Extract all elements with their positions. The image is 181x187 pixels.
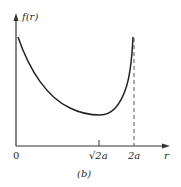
y-axis-label: f(r) — [22, 12, 38, 22]
tick-label-sqrt2a: √2a — [89, 151, 108, 161]
y-axis-arrow-icon — [14, 13, 19, 21]
origin-label: 0 — [13, 151, 19, 161]
curve-f-r — [18, 37, 133, 115]
x-axis-label: r — [164, 151, 169, 161]
x-axis-arrow-icon — [162, 144, 170, 149]
tick-label-2a: 2a — [128, 151, 140, 161]
figure-caption: (b) — [77, 169, 91, 179]
